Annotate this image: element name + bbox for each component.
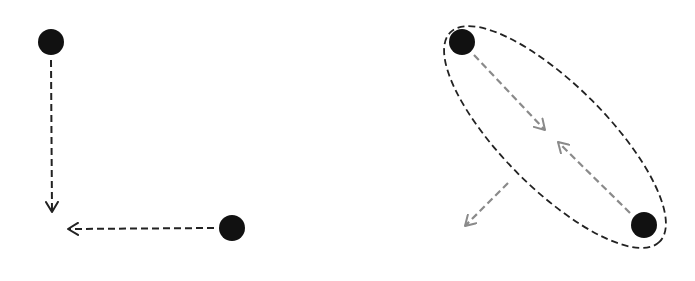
particle-dot-1 (449, 29, 475, 55)
inward-arrow-top-icon (474, 55, 545, 130)
left-arrow-icon (68, 228, 214, 229)
diagram-canvas (0, 0, 695, 281)
outward-arrow-icon (465, 183, 508, 226)
particle-dot-2 (631, 212, 657, 238)
particle-dot-1 (38, 29, 64, 55)
down-arrow-icon (51, 60, 52, 212)
particle-dot-2 (219, 215, 245, 241)
right-panel (414, 0, 695, 278)
inward-arrow-bottom-icon (558, 142, 630, 213)
left-panel (38, 29, 245, 241)
